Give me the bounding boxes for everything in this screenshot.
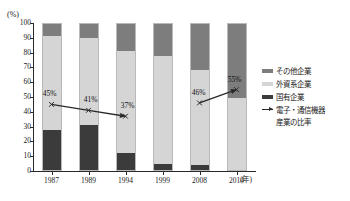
data-label-1994: 37% [121,102,135,110]
data-label-2014: 55% [228,76,242,84]
chart-root: (%) 1009080706050403020100 45%41%37%46%5… [0,0,350,201]
y-axis-tickmark-0 [30,171,33,172]
legend-label-ratio-line-1: 電子・通信機器 [276,106,325,115]
x-axis-label-1999: 1999 [155,177,170,185]
x-axis-tickmark-2008 [200,172,201,175]
data-point-labels: 45%41%37%46%55% [33,23,255,171]
legend-label-ratio-line-2: 産業の比率 [276,117,325,129]
y-axis-unit-label: (%) [7,10,19,19]
legend-swatch-line-arrow-icon [262,106,273,113]
data-label-1987: 45% [43,90,57,98]
chart-title-strip [0,0,350,9]
x-axis-line [33,171,256,172]
x-axis-tickmark-1994 [126,172,127,175]
legend-swatch-foreign-icon [262,82,273,86]
x-axis-unit-label: (年) [240,176,252,184]
x-axis-tickmark-1989 [89,172,90,175]
legend-item-foreign[interactable]: 外資系企業 [262,79,325,91]
x-axis-label-2008: 2008 [192,177,207,185]
x-axis-tickmark-2014 [237,172,238,175]
legend-label-foreign: 外資系企業 [276,79,311,91]
legend-item-other[interactable]: その他企業 [262,66,325,78]
legend-swatch-other-icon [262,69,273,73]
data-label-2008: 46% [192,89,206,97]
legend-swatch-state-icon [262,95,273,99]
x-axis-label-1994: 1994 [118,177,133,185]
x-axis-tickmark-1987 [52,172,53,175]
data-label-1989: 41% [84,96,98,104]
legend-label-ratio-line: 電子・通信機器 産業の比率 [276,105,325,128]
x-axis-tickmark-1999 [163,172,164,175]
chart-legend: その他企業 外資系企業 国有企業 電子・通信機器 産業の比率 [262,66,325,130]
legend-item-state[interactable]: 国有企業 [262,92,325,104]
legend-item-ratio-line[interactable]: 電子・通信機器 産業の比率 [262,105,325,128]
legend-label-state: 国有企業 [276,92,304,104]
x-axis-label-1989: 1989 [81,177,96,185]
x-axis-label-1987: 1987 [44,177,59,185]
legend-label-other: その他企業 [276,66,311,78]
